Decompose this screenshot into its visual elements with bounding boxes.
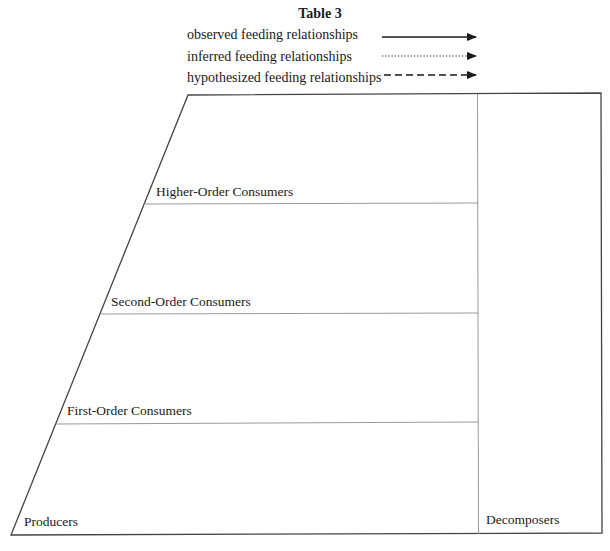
trophic-pyramid-outline xyxy=(11,93,602,535)
food-web-diagram xyxy=(0,0,610,551)
second-order-consumers-label: Second-Order Consumers xyxy=(111,294,251,310)
producers-label: Producers xyxy=(24,514,78,530)
second-order-divider xyxy=(100,313,478,314)
decomposers-divider xyxy=(478,94,479,534)
higher-order-divider xyxy=(144,203,478,204)
first-order-divider xyxy=(56,422,478,424)
first-order-consumers-label: First-Order Consumers xyxy=(67,403,192,419)
decomposers-label: Decomposers xyxy=(486,512,559,528)
higher-order-consumers-label: Higher-Order Consumers xyxy=(156,184,293,200)
